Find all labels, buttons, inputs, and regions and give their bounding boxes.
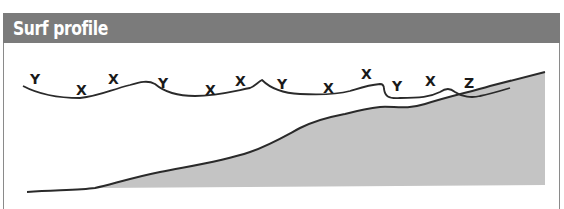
wave-label: X [425, 73, 436, 89]
wave-label: X [323, 80, 334, 96]
wave-label: X [235, 73, 246, 89]
wave-labels: Y X X Y X X Y X X Y X Z [29, 66, 474, 98]
wave-label: X [205, 82, 216, 98]
wave-label: X [108, 71, 119, 87]
wave-surface-line [23, 80, 510, 98]
wave-label: Y [157, 75, 169, 91]
wave-label: Z [464, 75, 474, 91]
wave-label: Y [391, 78, 403, 94]
wave-label: Y [29, 71, 41, 87]
wave-label: X [361, 66, 372, 82]
wave-label: Y [276, 76, 288, 92]
surf-profile-diagram: Y X X Y X X Y X X Y X Z [0, 0, 564, 209]
wave-label: X [76, 82, 87, 98]
